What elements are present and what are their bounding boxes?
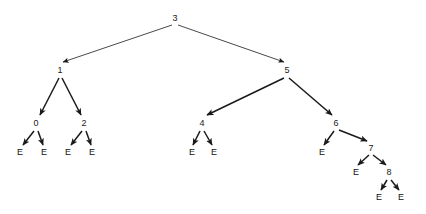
tree-edge-n4-to-e4r (204, 131, 212, 145)
tree-edges-layer (0, 0, 426, 214)
tree-leaf-node: E (17, 148, 23, 157)
tree-edge-n8-to-e8r (391, 180, 399, 190)
tree-edge-n5-to-n6 (289, 78, 332, 115)
tree-leaf-node: E (189, 148, 195, 157)
tree-edge-n0-to-e0l (23, 131, 34, 145)
tree-edge-n6-to-n7 (339, 130, 367, 141)
tree-node-1: 1 (57, 66, 62, 75)
tree-node-0: 0 (33, 119, 38, 128)
tree-edge-n3-to-n5 (178, 25, 284, 62)
tree-edge-n2-to-e2l (71, 131, 82, 145)
tree-node-7: 7 (368, 144, 373, 153)
tree-leaf-node: E (89, 148, 95, 157)
tree-leaf-node: E (211, 148, 217, 157)
tree-node-4: 4 (199, 119, 204, 128)
tree-leaf-node: E (398, 193, 404, 202)
tree-edge-n7-to-e7l (358, 155, 369, 165)
tree-edge-n4-to-e4l (193, 131, 200, 145)
tree-edge-n2-to-e2r (86, 131, 91, 145)
binary-tree-diagram: 315024678EEEEEEEEEE (0, 0, 426, 214)
tree-leaf-node: E (353, 168, 359, 177)
tree-edge-n1-to-n0 (40, 78, 59, 115)
tree-edge-n8-to-e8l (381, 180, 387, 190)
tree-leaf-node: E (65, 148, 71, 157)
tree-node-6: 6 (333, 119, 338, 128)
tree-leaf-node: E (376, 193, 382, 202)
tree-edge-n0-to-e0r (38, 131, 43, 145)
tree-edge-n1-to-n2 (62, 78, 81, 115)
edges-group (23, 25, 399, 190)
tree-node-3: 3 (172, 14, 177, 23)
tree-node-5: 5 (284, 66, 289, 75)
tree-edge-n5-to-n4 (207, 78, 284, 115)
tree-edge-n6-to-e6l (324, 131, 334, 145)
tree-node-2: 2 (81, 119, 86, 128)
tree-leaf-node: E (41, 148, 47, 157)
tree-edge-n3-to-n1 (63, 25, 172, 62)
tree-edge-n7-to-n8 (373, 155, 386, 165)
tree-leaf-node: E (319, 148, 325, 157)
tree-node-8: 8 (386, 168, 391, 177)
